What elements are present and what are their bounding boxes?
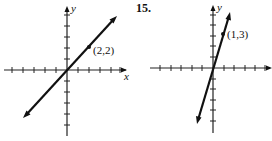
point-label: (1,3) bbox=[227, 28, 248, 41]
y-axis-label: y bbox=[70, 2, 76, 14]
graph-left-canvas: (2,2) x y bbox=[0, 0, 136, 141]
graph-right: 15. bbox=[136, 0, 272, 141]
data-point bbox=[87, 45, 91, 49]
problem-number: 15. bbox=[136, 1, 151, 15]
point-label: (2,2) bbox=[93, 44, 114, 57]
y-axis-arrow-icon bbox=[211, 5, 216, 11]
x-axis-arrow-icon bbox=[266, 66, 272, 71]
data-line bbox=[26, 19, 114, 115]
graph-right-canvas: 15. bbox=[136, 0, 272, 141]
line-arrow-top-icon bbox=[226, 12, 232, 21]
y-axis-arrow-icon bbox=[65, 6, 70, 12]
x-axis-label: x bbox=[123, 70, 129, 82]
y-axis-label: y bbox=[216, 1, 222, 13]
data-point bbox=[221, 32, 225, 36]
graph-left: (2,2) x y bbox=[0, 0, 136, 141]
line-arrow-bottom-icon bbox=[196, 116, 202, 124]
